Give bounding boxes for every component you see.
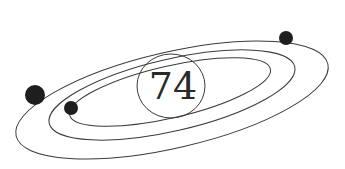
large-planet-icon — [25, 85, 45, 105]
small-planet-left-icon — [64, 101, 78, 115]
small-planet-right-icon — [279, 31, 293, 45]
orbit-diagram: 74 — [0, 0, 345, 169]
center-number: 74 — [140, 58, 206, 114]
